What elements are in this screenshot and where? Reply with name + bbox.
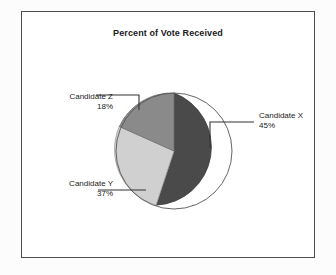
pie-label-candidate-y: Candidate Y 37% bbox=[39, 179, 113, 199]
pie-label-candidate-z: Candidate Z 18% bbox=[39, 92, 113, 112]
pie-label-candidate-y-name: Candidate Y bbox=[39, 179, 113, 189]
pie-chart-graphic bbox=[22, 12, 316, 259]
pie-label-candidate-x-name: Candidate X bbox=[259, 111, 336, 121]
page-background: Percent of Vote Received Candidate Z 18%… bbox=[0, 0, 336, 275]
pie-label-candidate-z-name: Candidate Z bbox=[39, 92, 113, 102]
chart-frame: Percent of Vote Received Candidate Z 18%… bbox=[21, 11, 315, 258]
pie-label-candidate-y-percent: 37% bbox=[39, 189, 113, 199]
pie-label-candidate-x: Candidate X 45% bbox=[259, 111, 336, 131]
pie-label-candidate-z-percent: 18% bbox=[39, 102, 113, 112]
pie-label-candidate-x-percent: 45% bbox=[259, 121, 336, 131]
